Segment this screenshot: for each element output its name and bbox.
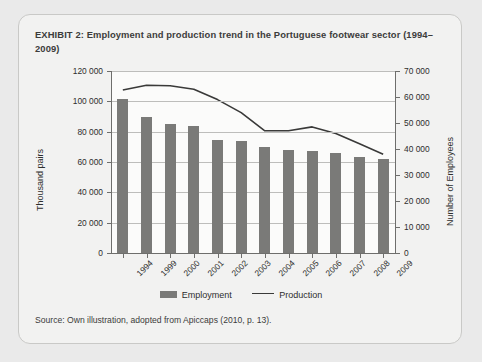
right-axis-tick xyxy=(396,253,400,254)
bar-swatch-icon xyxy=(160,291,177,298)
plot-area xyxy=(111,71,395,253)
bar-employment-1994 xyxy=(117,99,128,253)
exhibit-title: EXHIBIT 2: Employment and production tre… xyxy=(35,28,445,56)
x-axis-tick-label: 1999 xyxy=(158,258,178,278)
left-axis-tick xyxy=(107,192,111,193)
bar-employment-2007 xyxy=(330,153,341,253)
gridline xyxy=(111,192,395,193)
left-axis-tick xyxy=(107,162,111,163)
bar-employment-2000 xyxy=(165,124,176,253)
x-axis-tick xyxy=(147,254,148,258)
right-axis-tick-label: 30 000 xyxy=(404,170,430,180)
right-axis-title: Number of Employees xyxy=(445,137,455,226)
gridline xyxy=(111,132,395,133)
left-axis-tick xyxy=(107,71,111,72)
x-axis-tick xyxy=(194,254,195,258)
bar-employment-2004 xyxy=(259,147,270,253)
gridline xyxy=(111,101,395,102)
x-axis-tick xyxy=(312,254,313,258)
legend-item-employment: Employment xyxy=(160,289,232,300)
left-axis-tick-label: 0 xyxy=(43,248,103,258)
x-axis-tick xyxy=(336,254,337,258)
right-axis-tick xyxy=(396,175,400,176)
bar-employment-2006 xyxy=(307,151,318,253)
right-axis-tick-label: 10 000 xyxy=(404,222,430,232)
left-axis-tick-label: 120 000 xyxy=(43,66,103,76)
x-axis-tick xyxy=(218,254,219,258)
bar-employment-2005 xyxy=(283,150,294,253)
bar-employment-2002 xyxy=(212,140,223,253)
bar-employment-2003 xyxy=(236,141,247,253)
x-axis-tick-label: 2006 xyxy=(324,258,344,278)
exhibit-source-caption: Source: Own illustration, adopted from A… xyxy=(35,315,271,325)
legend-item-production: Production xyxy=(252,289,322,300)
right-axis-tick xyxy=(396,97,400,98)
x-axis-tick-label: 2001 xyxy=(205,258,225,278)
legend-label-employment: Employment xyxy=(182,290,232,300)
x-axis-tick xyxy=(383,254,384,258)
x-axis-tick-label: 2008 xyxy=(371,258,391,278)
right-axis-tick xyxy=(396,201,400,202)
x-axis-tick-label: 2002 xyxy=(229,258,249,278)
right-axis-tick xyxy=(396,149,400,150)
x-axis-tick-label: 2003 xyxy=(253,258,273,278)
bottom-axis-line xyxy=(111,253,396,254)
right-axis-tick-label: 60 000 xyxy=(404,92,430,102)
x-axis-tick-label: 2004 xyxy=(276,258,296,278)
right-axis-tick xyxy=(396,123,400,124)
x-axis-tick xyxy=(265,254,266,258)
exhibit-card: EXHIBIT 2: Employment and production tre… xyxy=(18,14,462,344)
right-axis-tick xyxy=(396,71,400,72)
x-axis-tick-label: 1994 xyxy=(134,258,154,278)
chart-figure: Thousand pairs Number of Employees Emplo… xyxy=(25,61,457,311)
x-axis-tick-label: 2009 xyxy=(395,258,415,278)
x-axis-tick-label: 2007 xyxy=(347,258,367,278)
gridline xyxy=(111,71,395,72)
legend-label-production: Production xyxy=(279,290,322,300)
x-axis-tick xyxy=(289,254,290,258)
left-axis-tick xyxy=(107,132,111,133)
left-axis-tick-label: 20 000 xyxy=(43,218,103,228)
chart-legend: Employment Production xyxy=(25,289,457,300)
right-axis-tick-label: 20 000 xyxy=(404,196,430,206)
line-swatch-icon xyxy=(252,293,274,294)
bar-employment-2008 xyxy=(354,157,365,253)
left-axis-tick-label: 40 000 xyxy=(43,187,103,197)
left-axis-tick-label: 80 000 xyxy=(43,127,103,137)
right-axis-tick-label: 70 000 xyxy=(404,66,430,76)
x-axis-tick-label: 2005 xyxy=(300,258,320,278)
left-axis-tick xyxy=(107,253,111,254)
x-axis-tick xyxy=(241,254,242,258)
x-axis-tick-label: 2000 xyxy=(182,258,202,278)
bar-employment-2009 xyxy=(378,159,389,253)
right-axis-tick xyxy=(396,227,400,228)
x-axis-tick xyxy=(123,254,124,258)
right-axis-tick-label: 0 xyxy=(404,248,409,258)
left-axis-tick-label: 100 000 xyxy=(43,96,103,106)
left-axis-tick xyxy=(107,223,111,224)
gridline xyxy=(111,162,395,163)
right-axis-tick-label: 40 000 xyxy=(404,144,430,154)
production-polyline xyxy=(123,85,383,154)
left-axis-tick-label: 60 000 xyxy=(43,157,103,167)
right-axis-tick-label: 50 000 xyxy=(404,118,430,128)
bar-employment-2001 xyxy=(188,126,199,253)
left-axis-tick xyxy=(107,101,111,102)
left-axis-line xyxy=(111,71,112,254)
gridline xyxy=(111,223,395,224)
bar-employment-1999 xyxy=(141,117,152,254)
x-axis-tick xyxy=(360,254,361,258)
x-axis-tick xyxy=(170,254,171,258)
